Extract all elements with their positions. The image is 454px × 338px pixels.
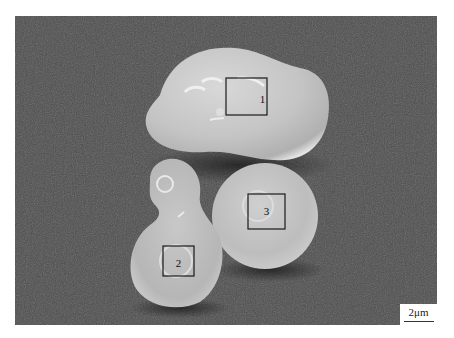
scale-bar-line: [404, 321, 434, 322]
sem-image: 1 2 3: [15, 16, 437, 325]
scale-bar-label: 2μm: [400, 306, 437, 318]
region-label-3: 3: [248, 205, 285, 217]
region-label-1: 1: [242, 93, 283, 105]
scale-bar: 2μm: [400, 304, 437, 325]
region-label-2: 2: [163, 257, 194, 269]
micrograph-canvas: [15, 16, 437, 325]
